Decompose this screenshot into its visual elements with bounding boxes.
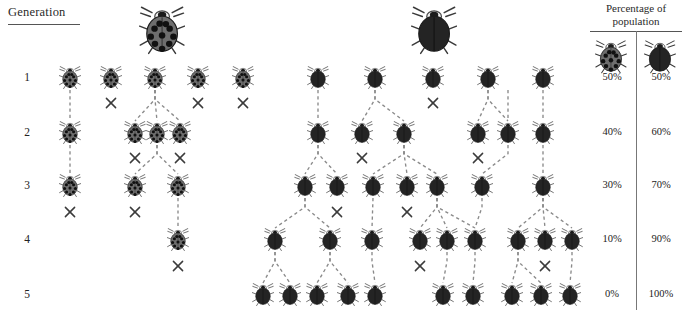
percentage-spotted-gen-5: 0% — [590, 288, 634, 299]
death-marker-layer — [0, 0, 686, 315]
generation-label-2: 2 — [16, 126, 30, 138]
percentage-dark-gen-3: 70% — [639, 179, 683, 190]
percentage-spotted-gen-3: 30% — [590, 179, 634, 190]
death-marker-10 — [130, 207, 139, 216]
death-marker-15 — [540, 261, 549, 270]
death-marker-1 — [106, 98, 115, 107]
death-marker-4 — [428, 98, 437, 107]
percentage-spotted-gen-4: 10% — [590, 233, 634, 244]
percentage-dark-gen-5: 100% — [639, 288, 683, 299]
figure-canvas: Generation Percentage of population 150%… — [0, 0, 686, 315]
death-marker-12 — [402, 207, 411, 216]
death-marker-5 — [130, 153, 139, 162]
generation-label-5: 5 — [16, 288, 30, 300]
death-marker-7 — [357, 153, 366, 162]
death-marker-2 — [193, 98, 202, 107]
percentage-spotted-gen-1: 50% — [590, 71, 634, 82]
death-marker-6 — [175, 153, 184, 162]
death-marker-14 — [415, 261, 424, 270]
death-marker-8 — [473, 153, 482, 162]
percentage-dark-gen-2: 60% — [639, 126, 683, 137]
generation-label-4: 4 — [16, 233, 30, 245]
percentage-spotted-gen-2: 40% — [590, 126, 634, 137]
percentage-dark-gen-1: 50% — [639, 71, 683, 82]
percentage-dark-gen-4: 90% — [639, 233, 683, 244]
generation-label-3: 3 — [16, 179, 30, 191]
generation-label-1: 1 — [16, 71, 30, 83]
death-marker-9 — [65, 207, 74, 216]
death-marker-11 — [332, 207, 341, 216]
death-marker-3 — [238, 98, 247, 107]
death-marker-13 — [173, 261, 182, 270]
